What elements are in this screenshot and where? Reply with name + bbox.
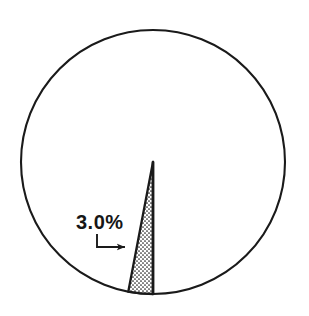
pie-chart-canvas: 3.0% bbox=[0, 0, 309, 316]
pie-chart-figure: 3.0% bbox=[0, 0, 309, 316]
slice-percentage-label: 3.0% bbox=[76, 211, 124, 233]
